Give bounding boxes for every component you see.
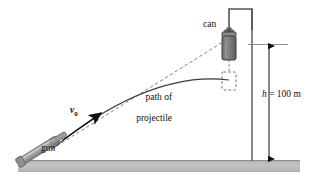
v0-subscript: 0 xyxy=(74,110,78,118)
height-label: h = 100 m xyxy=(262,89,301,99)
path-label-line2: projectile xyxy=(136,113,172,123)
projectile-path-label: path of projectile xyxy=(136,82,172,144)
height-value: = 100 m xyxy=(267,89,301,99)
velocity-vector xyxy=(63,113,101,140)
height-dimension xyxy=(248,45,296,162)
fallen-can-outline xyxy=(222,72,236,90)
suspended-can xyxy=(222,30,236,60)
path-label-line1: path of xyxy=(146,92,173,102)
diagram-canvas: can path of projectile gun v0 h = 100 m xyxy=(0,0,316,187)
can-label: can xyxy=(203,19,216,29)
initial-velocity-label: v0 xyxy=(70,105,78,118)
support-bracket xyxy=(224,9,253,33)
ground xyxy=(18,160,300,172)
gun-label: gun xyxy=(41,143,55,153)
